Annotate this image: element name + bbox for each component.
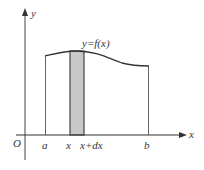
- y-axis-arrow-icon: [22, 8, 28, 16]
- y-axis-label: y: [30, 7, 36, 19]
- tick-label-a: a: [42, 139, 48, 151]
- curve-label: y=f(x): [81, 37, 110, 50]
- x-axis-arrow-icon: [179, 132, 187, 138]
- integral-diagram: y x O y=f(x) a x x+dx b: [0, 0, 204, 170]
- curve-f: [45, 51, 149, 66]
- tick-label-x: x: [65, 139, 71, 151]
- tick-label-b: b: [144, 139, 150, 151]
- strip-dx: [70, 51, 84, 135]
- origin-label: O: [13, 137, 21, 149]
- tick-label-x-plus-dx: x+dx: [79, 139, 103, 151]
- x-axis-label: x: [188, 128, 194, 140]
